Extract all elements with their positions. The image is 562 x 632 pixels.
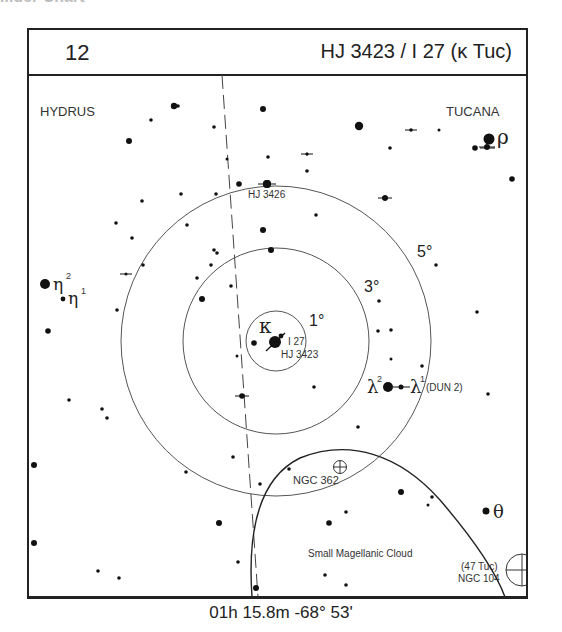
star: [195, 276, 199, 280]
star: [149, 118, 153, 122]
label-kappa: κ: [259, 314, 272, 338]
star: [251, 340, 257, 346]
star: [115, 308, 119, 312]
label-smc: Small Magellanic Cloud: [308, 548, 413, 559]
star: [377, 299, 381, 303]
ngc362-cluster-icon: [334, 461, 347, 474]
circle-label-3deg: 3°: [364, 278, 379, 295]
star: [100, 407, 104, 411]
double-star: [239, 393, 245, 399]
star: [472, 145, 478, 151]
star: [141, 263, 145, 267]
star: [355, 122, 363, 130]
star: [126, 138, 132, 144]
star: [96, 569, 100, 573]
star: [184, 470, 188, 474]
constellation-boundary-line: [222, 75, 258, 597]
label-i27: I 27: [288, 336, 305, 347]
star: [430, 495, 434, 499]
star: [427, 504, 430, 507]
star: [260, 227, 266, 233]
star: [420, 364, 424, 368]
star: [389, 328, 393, 332]
star: [287, 467, 291, 471]
star: [31, 462, 37, 468]
label-eta2-sup: 2: [66, 271, 71, 281]
star: [268, 247, 274, 253]
label-eta1: η: [68, 288, 78, 308]
star-theta: [483, 508, 490, 515]
star: [356, 425, 360, 429]
double-star: [125, 273, 128, 276]
star: [67, 398, 71, 402]
star: [114, 221, 118, 225]
label-hj3423: HJ 3423: [281, 349, 319, 360]
star: [376, 329, 380, 333]
star: [312, 385, 316, 389]
circle-label-5deg: 5°: [417, 243, 432, 260]
star: [130, 236, 134, 240]
star: [390, 358, 393, 361]
star: [326, 520, 332, 526]
star: [398, 489, 404, 495]
star-map: HYDRUS TUCANA 5° 3° 1° κ I 27 HJ 3423 HJ…: [0, 0, 562, 632]
double-star: [409, 128, 413, 132]
star: [305, 169, 309, 173]
star: [179, 192, 183, 196]
star: [231, 455, 235, 459]
lambda-tuc-double-star: [383, 382, 410, 392]
star: [105, 416, 109, 420]
constellation-label-hydrus: HYDRUS: [40, 104, 95, 119]
label-ngc104: NGC 104: [458, 573, 500, 584]
star-rho: [484, 134, 495, 145]
star: [253, 585, 259, 591]
star-eta1: [61, 297, 66, 302]
star: [434, 263, 438, 267]
star: [260, 106, 266, 112]
star: [323, 573, 327, 577]
star: [215, 251, 219, 255]
double-star: [484, 144, 490, 150]
star: [140, 199, 144, 203]
star: [117, 576, 121, 580]
star: [486, 392, 490, 396]
star: [226, 158, 229, 161]
star: [236, 355, 239, 358]
circle-label-1deg: 1°: [309, 312, 324, 329]
label-ngc362: NGC 362: [293, 474, 339, 486]
star: [212, 125, 216, 129]
label-lambda2-sup: 2: [377, 374, 382, 384]
star: [236, 560, 240, 564]
star: [236, 181, 242, 187]
star: [509, 176, 515, 182]
star: [344, 583, 348, 587]
star: [214, 192, 218, 196]
star: [216, 520, 222, 526]
ngc104-cluster-icon: [506, 554, 538, 586]
star: [212, 248, 216, 252]
label-rho: ρ: [497, 125, 509, 149]
star: [185, 223, 189, 227]
label-theta: θ: [493, 501, 504, 522]
star: [266, 155, 270, 159]
label-eta2: η: [53, 274, 63, 294]
star: [209, 263, 213, 267]
double-star: [263, 180, 271, 188]
label-hj3426: HJ 3426: [248, 189, 286, 200]
label-47tuc: (47 Tuc): [461, 561, 498, 572]
star: [199, 296, 205, 302]
label-lambda1-sup: 1: [420, 374, 425, 384]
star: [438, 129, 441, 132]
label-eta1-sup: 1: [81, 286, 86, 296]
star: [176, 104, 180, 108]
double-star: [382, 195, 388, 201]
star: [45, 328, 51, 334]
star: [31, 540, 37, 546]
star: [258, 482, 262, 486]
double-star: [306, 153, 309, 156]
star: [388, 146, 392, 150]
chart-center-coordinates: 01h 15.8m -68° 53': [0, 603, 562, 623]
star: [229, 284, 233, 288]
star-eta2: [40, 279, 50, 289]
star: [344, 510, 348, 514]
